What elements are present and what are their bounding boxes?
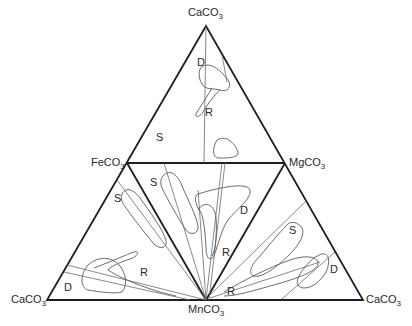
- field-label-left-r: R: [140, 266, 148, 278]
- vertex-label-mn: MnCO3: [188, 303, 225, 318]
- vertex-label-fe: FeCO3: [91, 156, 125, 171]
- vertex-label-bottom-right: CaCO3: [366, 293, 402, 308]
- vertex-label-top: CaCO3: [188, 6, 224, 21]
- field-label-top-r: R: [205, 106, 213, 118]
- left-triangle-fields: [64, 180, 206, 300]
- field-label-left-s: S: [114, 192, 121, 204]
- field-label-right-r: R: [227, 285, 235, 297]
- vertex-label-bottom-left: CaCO3: [11, 293, 47, 308]
- field-label-right-d: D: [330, 263, 338, 275]
- field-label-center-d: D: [240, 204, 248, 216]
- center-triangle-fields: [161, 163, 250, 300]
- field-label-center-s: S: [150, 176, 157, 188]
- field-label-top-d: D: [197, 56, 205, 68]
- field-label-top-s: S: [156, 131, 163, 143]
- vertex-label-mg: MgCO3: [289, 156, 326, 171]
- field-label-center-r: R: [222, 246, 230, 258]
- field-label-right-s: S: [289, 224, 296, 236]
- field-label-left-d: D: [64, 281, 72, 293]
- ternary-diagram: CaCO3 FeCO3 MgCO3 CaCO3 MnCO3 CaCO3 D R …: [0, 0, 412, 326]
